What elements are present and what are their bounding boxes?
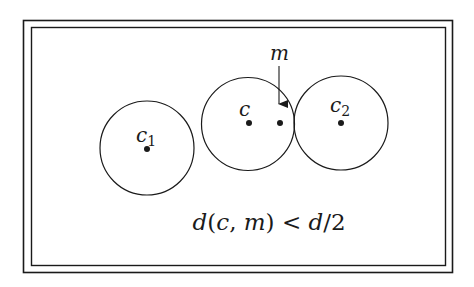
- label-c2: c2: [330, 93, 350, 119]
- formula-relation: <: [275, 209, 309, 235]
- formula-d2: d: [309, 209, 324, 235]
- label-c: c: [239, 97, 250, 121]
- point-m: [277, 120, 283, 126]
- diagram-canvas: c1 c c2 m d(c, m) < d/2: [0, 0, 474, 287]
- formula: d(c, m) < d/2: [156, 209, 368, 235]
- label-m: m: [270, 41, 289, 65]
- formula-comma: ,: [229, 209, 244, 235]
- formula-open: (: [207, 209, 216, 235]
- formula-close: ): [266, 209, 275, 235]
- formula-d1: d: [193, 209, 208, 235]
- point-c2: [338, 120, 344, 126]
- formula-rest: /2: [323, 209, 345, 235]
- formula-arg2: m: [244, 209, 266, 235]
- formula-arg1: c: [216, 209, 229, 235]
- label-c1: c1: [136, 123, 156, 149]
